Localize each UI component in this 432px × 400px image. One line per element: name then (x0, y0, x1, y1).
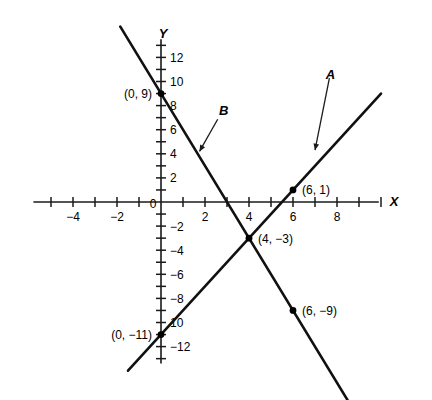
data-point-label: (0, −11) (111, 328, 152, 342)
axis-names-group: XY (159, 26, 400, 209)
y-tick-label: 10 (170, 75, 184, 89)
y-tick-label: 6 (170, 123, 177, 137)
y-tick-label: −12 (170, 340, 191, 354)
line-label-arrowhead-a (313, 143, 319, 150)
coordinate-plane-svg: −4−2246812108642−2−4−6−810−120 AB (0, 9)… (0, 0, 432, 400)
y-tick-label: −4 (170, 244, 184, 258)
y-tick-label: 2 (170, 171, 177, 185)
graph-figure: −4−2246812108642−2−4−6−810−120 AB (0, 9)… (0, 0, 432, 400)
point-labels-group: (0, 9)(6, 1)(4, −3)(6, −9)(0, −11) (111, 87, 337, 342)
line-label-pointers-group: AB (200, 67, 336, 151)
y-tick-label: −2 (170, 220, 184, 234)
x-tick-label: 6 (290, 210, 297, 224)
data-point-label: (4, −3) (258, 232, 293, 246)
y-tick-label: −6 (170, 268, 184, 282)
x-tick-label: 8 (334, 210, 341, 224)
y-tick-label: −8 (170, 292, 184, 306)
data-point (290, 307, 297, 314)
origin-label: 0 (150, 197, 157, 211)
data-point (246, 235, 253, 242)
data-line-a (128, 94, 381, 371)
line-label-a: A (325, 67, 335, 82)
line-label-pointer-a (315, 78, 329, 150)
data-line-b (120, 27, 348, 400)
x-tick-label: −4 (66, 210, 80, 224)
y-axis-label: Y (159, 26, 169, 41)
data-point-label: (6, −9) (302, 304, 337, 318)
y-tick-label: 4 (170, 147, 177, 161)
data-point (158, 90, 165, 97)
x-tick-label: −2 (110, 210, 124, 224)
x-tick-label: 4 (246, 210, 253, 224)
y-tick-label: 12 (170, 51, 184, 65)
data-point-label: (6, 1) (302, 183, 330, 197)
data-point-label: (0, 9) (124, 87, 152, 101)
x-axis-label: X (389, 194, 400, 209)
line-label-b: B (219, 103, 228, 118)
data-point (158, 331, 165, 338)
data-point (290, 187, 297, 194)
x-tick-label: 2 (202, 210, 209, 224)
